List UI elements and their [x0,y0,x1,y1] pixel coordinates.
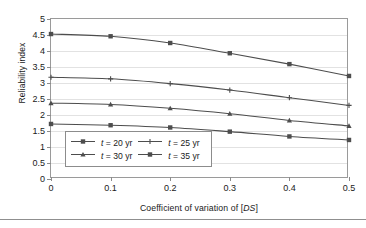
data-point-marker [168,41,172,45]
footer-rule [0,219,366,220]
legend-symbol-icon [137,150,163,159]
y-tick-label: 4.5 [32,31,45,40]
legend-symbol-icon [70,137,96,146]
legend-symbol-2 [70,149,101,162]
data-point-marker [148,152,152,156]
data-point-marker [346,103,351,108]
data-point-marker [228,129,232,133]
data-point-marker [228,51,232,55]
data-point-marker [108,34,112,38]
y-tick-label: 3.5 [32,63,45,72]
y-tick-label: 1 [40,143,45,152]
y-tick-label: 5 [40,15,45,24]
series-line-2 [51,103,349,126]
legend-table: t = 20 yr t = 25 yr t = 30 yr t = 35 yr [70,136,205,162]
x-tick [349,177,350,181]
data-point-marker [227,87,232,92]
legend-symbol-1 [137,136,168,149]
chart-figure: Reliability index 00.511.522.533.544.55 … [0,0,366,228]
legend: t = 20 yr t = 25 yr t = 30 yr t = 35 yr [65,131,212,167]
series-line-1 [51,77,349,105]
x-axis-title: Coefficient of variation of [DS] [50,203,348,213]
legend-symbol-icon [137,137,163,146]
data-point-marker [287,134,291,138]
legend-label-0: t = 20 yr [101,136,137,149]
y-tick-label: 2.5 [32,95,45,104]
legend-symbol-0 [70,136,101,149]
data-point-marker [148,139,153,144]
x-tick-label: 0.5 [343,184,356,193]
plot-area: 00.511.522.533.544.55 00.10.20.30.40.5 t… [50,18,348,178]
data-point-marker [168,81,173,86]
data-point-marker [108,76,113,81]
series-line-0 [51,34,349,76]
data-point-marker [347,138,351,142]
y-tick-label: 4 [40,47,45,56]
data-point-marker [81,139,85,143]
x-tick-label: 0.1 [104,184,117,193]
y-tick-label: 0.5 [32,159,45,168]
legend-symbol-3 [137,149,168,162]
data-point-marker [287,95,292,100]
data-point-marker [49,32,53,36]
y-tick-label: 0 [40,175,45,184]
legend-symbol-icon [70,150,96,159]
data-point-marker [287,62,291,66]
legend-label-1: t = 25 yr [168,136,204,149]
data-point-marker [49,122,53,126]
x-tick-label: 0.3 [224,184,237,193]
x-tick-label: 0 [48,184,53,193]
y-tick-label: 1.5 [32,127,45,136]
data-point-marker [168,125,172,129]
legend-label-3: t = 35 yr [168,149,204,162]
y-tick-label: 3 [40,79,45,88]
data-point-marker [347,74,351,78]
legend-label-2: t = 30 yr [101,149,137,162]
x-tick-label: 0.2 [164,184,177,193]
y-axis-title: Reliability index [17,3,27,143]
y-tick-label: 2 [40,111,45,120]
x-tick-label: 0.4 [283,184,296,193]
data-point-marker [108,123,112,127]
data-point-marker [48,75,53,80]
